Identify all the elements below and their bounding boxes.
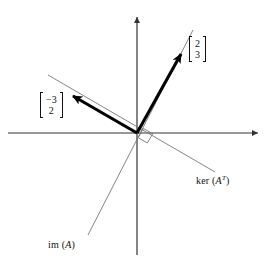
right-angle-square <box>138 129 153 144</box>
vector-entry-2: 3 <box>195 49 200 60</box>
vector-entry-1: 2 <box>195 38 200 49</box>
vector-label-minus3-2: −3 2 <box>40 92 63 118</box>
ker-a-transpose-label: ker (AT) <box>196 176 230 186</box>
vector-entries: 2 3 <box>193 36 202 62</box>
vector-label-2-3: 2 3 <box>189 36 206 62</box>
im-label-prefix: im ( <box>48 239 65 250</box>
bracket-right-icon <box>59 92 63 118</box>
im-a-label: im (A) <box>48 240 75 250</box>
bracket-left-icon <box>189 36 193 62</box>
vector-entry-1: −3 <box>46 94 57 105</box>
bracket-right-icon <box>202 36 206 62</box>
ker-A-transpose-line <box>48 75 215 172</box>
vector-minus3-2 <box>73 96 137 133</box>
vector-entries: −3 2 <box>44 92 59 118</box>
figure-canvas <box>0 0 268 263</box>
ker-label-prefix: ker ( <box>196 175 216 186</box>
vector-entry-2: 2 <box>49 105 54 116</box>
linear-algebra-figure: 2 3 −3 2 ker (AT) im (A) <box>0 0 268 263</box>
im-label-suffix: ) <box>72 239 76 250</box>
vector-2-3 <box>137 54 181 133</box>
bracket-left-icon <box>40 92 44 118</box>
ker-label-suffix: ) <box>226 175 230 186</box>
